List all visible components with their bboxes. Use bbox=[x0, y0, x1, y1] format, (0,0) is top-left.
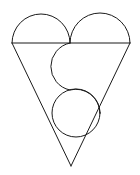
figure-canvas bbox=[0, 0, 140, 175]
right-semicircle-arc bbox=[70, 13, 130, 43]
s-curve-divider bbox=[51, 43, 100, 113]
triangle-left-edge bbox=[12, 43, 71, 166]
lower-circle bbox=[52, 89, 100, 137]
heart-figure-svg bbox=[0, 0, 140, 175]
triangle-right-edge bbox=[71, 43, 130, 166]
left-semicircle-arc bbox=[12, 14, 70, 43]
